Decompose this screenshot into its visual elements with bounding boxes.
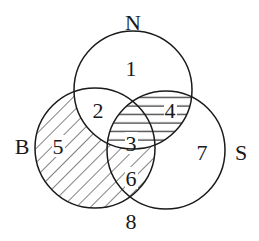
set-label-n: N xyxy=(125,10,141,35)
set-label-s: S xyxy=(235,140,247,165)
region-label-8: 8 xyxy=(126,209,137,234)
region-label-5: 5 xyxy=(53,134,64,159)
region-label-4: 4 xyxy=(165,98,176,123)
venn-diagram: N B S 1 2 3 4 5 6 7 8 xyxy=(0,0,259,241)
region-label-6: 6 xyxy=(126,166,137,191)
region-label-3: 3 xyxy=(126,131,137,156)
region-label-1: 1 xyxy=(126,56,137,81)
set-label-b: B xyxy=(15,134,30,159)
region-label-7: 7 xyxy=(197,140,208,165)
region-label-2: 2 xyxy=(93,98,104,123)
